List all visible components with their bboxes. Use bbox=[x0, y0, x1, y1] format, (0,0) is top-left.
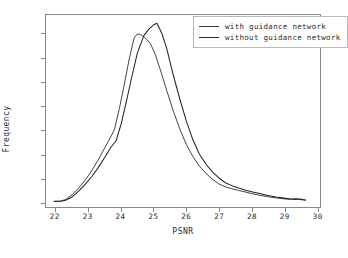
legend-line-swatch-without-guidance bbox=[199, 37, 219, 38]
x-tick-mark bbox=[318, 208, 319, 212]
legend-label-without-guidance: without guidance network bbox=[225, 33, 341, 42]
y-tick-mark bbox=[41, 130, 45, 131]
x-tick-mark bbox=[186, 208, 187, 212]
series-line bbox=[54, 23, 305, 201]
x-tick-label: 22 bbox=[50, 212, 60, 221]
x-tick-mark bbox=[55, 208, 56, 212]
y-tick-mark bbox=[41, 58, 45, 59]
y-tick-mark bbox=[41, 155, 45, 156]
legend-label-with-guidance: with guidance network bbox=[225, 22, 326, 31]
x-tick-mark bbox=[252, 208, 253, 212]
y-tick-mark bbox=[41, 33, 45, 34]
x-tick-label: 25 bbox=[148, 212, 158, 221]
x-tick-label: 29 bbox=[280, 212, 290, 221]
x-tick-mark bbox=[88, 208, 89, 212]
y-tick-mark bbox=[41, 179, 45, 180]
y-tick-mark bbox=[41, 106, 45, 107]
x-tick-mark bbox=[219, 208, 220, 212]
x-tick-label: 28 bbox=[247, 212, 257, 221]
y-tick-mark bbox=[41, 82, 45, 83]
y-axis-label: Frequency bbox=[2, 106, 11, 153]
chart-legend: with guidance network without guidance n… bbox=[193, 16, 348, 48]
x-axis-label: PSNR bbox=[172, 227, 193, 236]
x-tick-mark bbox=[153, 208, 154, 212]
x-tick-mark bbox=[121, 208, 122, 212]
legend-item-with-guidance: with guidance network bbox=[199, 21, 341, 32]
x-tick-label: 24 bbox=[116, 212, 126, 221]
x-tick-label: 23 bbox=[83, 212, 93, 221]
legend-item-without-guidance: without guidance network bbox=[199, 32, 341, 43]
x-tick-label: 30 bbox=[313, 212, 323, 221]
x-tick-label: 27 bbox=[214, 212, 224, 221]
x-tick-mark bbox=[285, 208, 286, 212]
legend-line-swatch-with-guidance bbox=[199, 26, 219, 27]
x-tick-label: 26 bbox=[181, 212, 191, 221]
y-tick-mark bbox=[41, 203, 45, 204]
